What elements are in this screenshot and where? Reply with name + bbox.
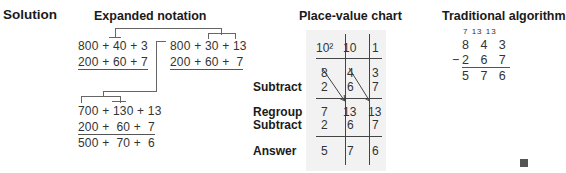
- regroup-marks: 7 13 13: [463, 27, 497, 36]
- traditional-algorithm-title: Traditional algorithm: [442, 9, 566, 23]
- difference: 5 7 6: [462, 69, 510, 83]
- minuend: 8 4 3: [462, 38, 510, 52]
- end-of-solution-icon: [520, 159, 528, 167]
- minus-sign: −: [452, 53, 459, 67]
- subtrahend: 2 6 7: [462, 53, 510, 68]
